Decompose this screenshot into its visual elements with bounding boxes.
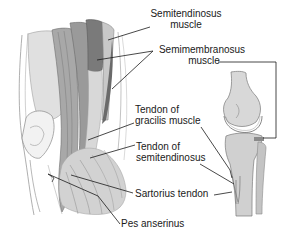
label-pes-anserinus: Pes anserinus	[121, 218, 184, 229]
label-semimembranosus-muscle: Semimembranosus muscle	[150, 44, 254, 66]
label-line: Semimembranosus	[150, 44, 254, 55]
knee-joint-inset	[224, 71, 267, 216]
label-semitendinosus-muscle: Semitendinosus muscle	[141, 8, 231, 30]
label-line: Semitendinosus	[141, 8, 231, 19]
label-tendon-of-semitendinosus: Tendon of semitendinosus	[136, 141, 205, 163]
label-line: muscle	[150, 55, 254, 66]
label-line: Tendon of	[136, 141, 205, 152]
label-line: Sartorius tendon	[135, 188, 208, 199]
label-line: Pes anserinus	[121, 218, 184, 229]
label-line: semitendinosus	[136, 152, 205, 163]
label-sartorius-tendon: Sartorius tendon	[135, 188, 208, 199]
knee-anatomy-diagram: Semitendinosus muscle Semimembranosus mu…	[0, 0, 284, 244]
label-line: muscle	[141, 19, 231, 30]
label-line: Tendon of	[135, 104, 201, 115]
knee-illustration	[19, 20, 127, 215]
label-line: gracilis muscle	[135, 115, 201, 126]
label-tendon-of-gracilis: Tendon of gracilis muscle	[135, 104, 201, 126]
